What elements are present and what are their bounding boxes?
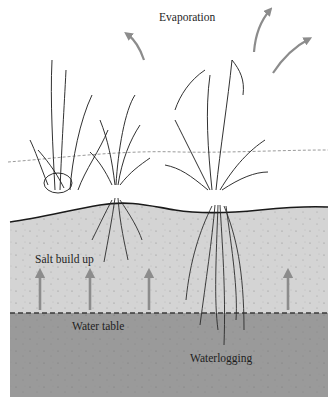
salinity-diagram: Evaporation Salt build up Water table Wa… — [0, 0, 335, 407]
salt-build-up-label: Salt build up — [35, 254, 94, 266]
waterlogging-label: Waterlogging — [190, 353, 252, 365]
water-table-label: Water table — [72, 321, 124, 333]
diagram-illustration — [0, 0, 335, 407]
evaporation-label: Evaporation — [159, 12, 215, 24]
evaporation-arrows — [127, 10, 309, 73]
plants — [30, 60, 268, 193]
